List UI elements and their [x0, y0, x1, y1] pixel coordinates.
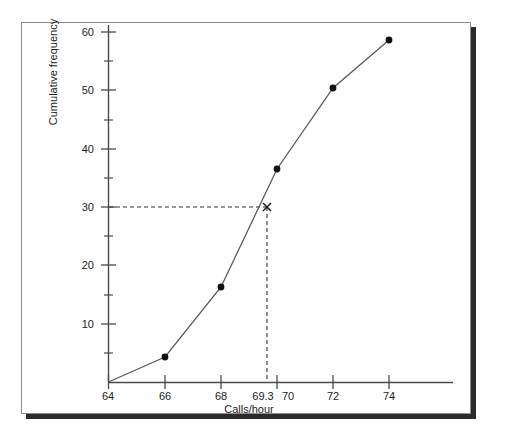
y-tick-label-60: 60 — [72, 27, 94, 38]
x-tick-label-64: 64 — [102, 391, 114, 402]
x-tick-label-66: 66 — [159, 391, 171, 402]
y-tick-label-40: 40 — [72, 144, 94, 155]
y-tick-label-50: 50 — [72, 85, 94, 96]
figure-frame — [21, 22, 471, 414]
y-axis-title: Cumulative frequency — [47, 2, 59, 142]
frame-shadow-right — [471, 27, 476, 419]
y-tick-label-30: 30 — [72, 202, 94, 213]
page-root: 60 50 40 30 20 10 64 66 68 69.3 70 72 74… — [0, 0, 505, 441]
x-tick-label-68: 68 — [215, 391, 227, 402]
x-axis-title: Calls/hour — [139, 403, 359, 415]
x-tick-label-69-3: 69.3 — [252, 391, 273, 402]
y-tick-label-20: 20 — [72, 260, 94, 271]
x-tick-label-74: 74 — [383, 391, 395, 402]
y-tick-label-10: 10 — [72, 319, 94, 330]
x-tick-label-70: 70 — [282, 391, 294, 402]
x-tick-label-72: 72 — [327, 391, 339, 402]
